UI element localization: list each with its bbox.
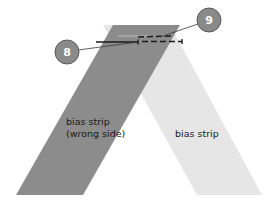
callout-9-number: 9 [205,14,213,27]
diagram-canvas: 8 9 [0,0,280,209]
dark-strip-label-line2: (wrong side) [66,128,125,140]
callout-8: 8 [55,40,79,64]
callout-9: 9 [197,8,221,32]
light-strip-label: bias strip [175,128,219,140]
callout-8-number: 8 [63,46,71,59]
dark-strip-label: bias strip (wrong side) [66,116,125,140]
dark-strip-label-line1: bias strip [66,116,125,128]
